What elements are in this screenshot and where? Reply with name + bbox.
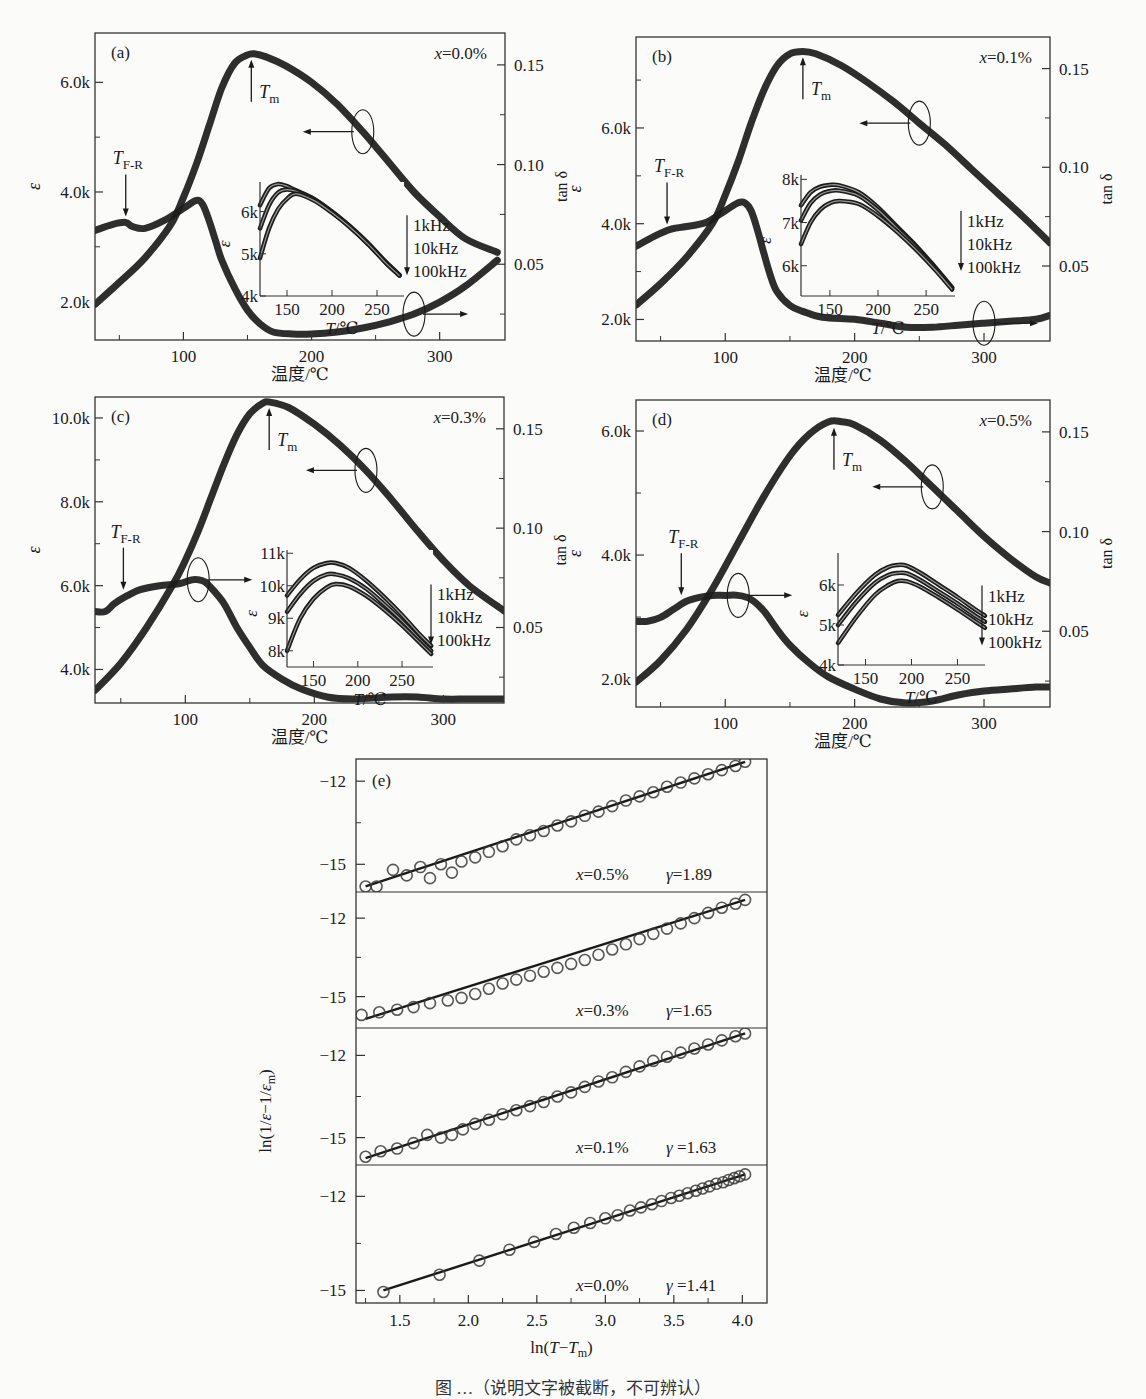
inset-y-tick-label: 8k xyxy=(268,642,286,661)
gamma-label: γ =1.63 xyxy=(666,1138,716,1157)
y-left-tick-label: 4.0k xyxy=(601,215,631,234)
panel-label: (d) xyxy=(652,410,672,429)
inset-x-tick-label: 150 xyxy=(274,300,300,319)
gamma-label: γ=1.65 xyxy=(666,1001,712,1020)
x-tick-label: 200 xyxy=(842,348,868,367)
tfr-label: TF-R xyxy=(113,148,144,172)
inset-y-tick-label: 11k xyxy=(260,544,285,563)
x-tick-label: 3.0 xyxy=(595,1311,616,1330)
y-right-tick-label: 0.10 xyxy=(1059,158,1089,177)
legend-10kHz: 10kHz xyxy=(413,239,459,258)
inset-x-axis-label: T/℃ xyxy=(325,319,358,338)
inset-chart: 1502002506k7k8kT/℃ε1kHz10kHz100kHz xyxy=(756,170,1021,338)
inset-x-tick-label: 250 xyxy=(945,669,971,688)
inset-x-tick-label: 200 xyxy=(865,300,891,319)
x-axis-label: ln(T−Tm) xyxy=(530,1338,592,1360)
data-point-marker xyxy=(538,966,549,977)
legend-10kHz: 10kHz xyxy=(437,608,483,627)
y-left-tick-label: 2.0k xyxy=(60,293,90,312)
y-tick-label: −15 xyxy=(319,1281,346,1300)
composition-label: x=0.5% xyxy=(978,411,1032,430)
panel-label: (e) xyxy=(372,771,391,790)
data-point-marker xyxy=(470,989,481,1000)
inset-y-tick-label: 6k xyxy=(241,203,259,222)
x-tick-label: 100 xyxy=(171,347,197,366)
inset-y-tick-label: 9k xyxy=(268,609,286,628)
x-tick-label: 200 xyxy=(302,710,328,729)
panel-e: −12−15x=0.5%γ=1.89−12−15x=0.3%γ=1.65−12−… xyxy=(256,756,767,1360)
data-point-marker xyxy=(497,978,508,989)
arrowhead-icon xyxy=(248,60,254,68)
inset-x-tick-label: 200 xyxy=(899,669,925,688)
x-tick-label: 200 xyxy=(842,714,868,733)
x-axis-label: 温度/℃ xyxy=(271,365,329,384)
x-tick-label: 2.5 xyxy=(526,1311,547,1330)
tm-label: Tm xyxy=(842,450,862,474)
y-right-tick-label: 0.10 xyxy=(514,156,544,175)
tm-label: Tm xyxy=(277,430,297,454)
arrowhead-icon xyxy=(266,408,272,416)
axes-frame xyxy=(356,759,767,1303)
inset-y-axis-label: ε xyxy=(215,240,234,247)
legend-10kHz: 10kHz xyxy=(988,610,1034,629)
inset-y-tick-label: 10k xyxy=(260,577,286,596)
arrowhead-icon xyxy=(244,577,252,583)
y-right-tick-label: 0.10 xyxy=(1059,523,1089,542)
panel-label: (c) xyxy=(111,407,130,426)
y-right-tick-label: 0.05 xyxy=(1059,622,1089,641)
data-point-marker xyxy=(634,934,645,945)
data-point-marker xyxy=(424,873,435,884)
y-axis-label: ln(1/ε−1/εm) xyxy=(256,1069,278,1152)
arrowhead-icon xyxy=(306,467,314,473)
inset-x-axis-label: T/℃ xyxy=(905,688,938,707)
figure-caption: 图 …（说明文字被截断，不可辨认） xyxy=(0,1374,1146,1399)
arrowhead-icon xyxy=(859,120,867,126)
arrowhead-icon xyxy=(678,587,684,595)
subplot-x=0.0%: −12−15x=0.0%γ =1.41 xyxy=(319,1165,767,1300)
y-left-tick-label: 6.0k xyxy=(601,119,631,138)
data-point-marker xyxy=(456,992,467,1003)
inset-x-tick-label: 250 xyxy=(913,300,939,319)
arrowhead-icon xyxy=(872,484,880,490)
arrowhead-icon xyxy=(404,267,410,275)
x-tick-label: 300 xyxy=(427,347,453,366)
arrowhead-icon xyxy=(460,311,468,317)
x-tick-label: 4.0 xyxy=(732,1311,753,1330)
inset-x-tick-label: 250 xyxy=(364,300,390,319)
inset-y-tick-label: 8k xyxy=(782,170,800,189)
inset-y-tick-label: 4k xyxy=(819,656,837,675)
arrowhead-icon xyxy=(784,592,792,598)
legend-1kHz: 1kHz xyxy=(413,216,450,235)
composition-label: x=0.1% xyxy=(978,48,1032,67)
composition-label: x=0.1% xyxy=(575,1138,629,1157)
data-point-marker xyxy=(387,864,398,875)
x-tick-label: 2.0 xyxy=(458,1311,479,1330)
y-left-tick-label: 2.0k xyxy=(601,310,631,329)
inset-y-axis-label: ε xyxy=(242,610,261,617)
y-tick-label: −15 xyxy=(319,988,346,1007)
arrowhead-icon xyxy=(831,428,837,436)
data-point-marker xyxy=(456,856,467,867)
y-right-axis-label: tan δ xyxy=(1098,173,1115,204)
y-tick-label: −12 xyxy=(319,1046,346,1065)
y-tick-label: −15 xyxy=(319,1129,346,1148)
x-tick-label: 100 xyxy=(713,714,739,733)
inset-x-tick-label: 200 xyxy=(319,300,345,319)
panel-label: (a) xyxy=(111,43,130,62)
inset-chart: 1502002504k5k6kT/℃ε1kHz10kHz100kHz xyxy=(793,553,1042,707)
arrowhead-icon xyxy=(664,216,670,224)
inset-y-tick-label: 4k xyxy=(241,287,259,306)
y-left-tick-label: 8.0k xyxy=(60,493,90,512)
y-left-tick-label: 6.0k xyxy=(601,422,631,441)
x-tick-label: 100 xyxy=(713,348,739,367)
y-left-axis-label: ε xyxy=(24,546,44,554)
arrowhead-icon xyxy=(958,263,964,271)
inset-y-tick-label: 5k xyxy=(241,245,259,264)
inset-y-axis-label: ε xyxy=(793,610,812,617)
y-left-axis-label: ε xyxy=(565,185,585,193)
gamma-label: γ=1.89 xyxy=(666,865,712,884)
y-right-tick-label: 0.15 xyxy=(513,420,543,439)
y-right-tick-label: 0.15 xyxy=(514,56,544,75)
arrowhead-icon xyxy=(120,582,126,590)
